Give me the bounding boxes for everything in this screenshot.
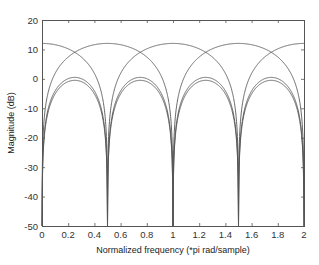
y-tick-label: -10 [24,103,38,114]
y-tick-label: 10 [27,44,38,55]
x-tick-label: 0.2 [62,229,75,240]
y-axis-label: Magnitude (dB) [6,92,16,154]
y-tick-label: -40 [24,191,38,202]
y-tick-label: -30 [24,162,38,173]
x-tick-label: 0.8 [140,229,153,240]
magnitude-response-chart: 00.20.40.60.811.21.41.61.82 20100-10-20-… [0,0,319,265]
y-tick-label: -50 [24,221,38,232]
x-tick-label: 0 [39,229,44,240]
y-tick-label: 0 [33,73,38,84]
y-tick-label: -20 [24,132,38,143]
x-tick-label: 1 [170,229,175,240]
x-tick-label: 0.4 [88,229,101,240]
x-tick-label: 1.2 [193,229,206,240]
x-tick-label: 2 [301,229,306,240]
x-tick-label: 1.8 [271,229,284,240]
x-axis-label: Normalized frequency (*pi rad/sample) [96,245,250,255]
y-tick-label: 20 [27,15,38,26]
x-tick-label: 1.6 [245,229,258,240]
x-tick-label: 0.6 [114,229,127,240]
x-tick-label: 1.4 [219,229,232,240]
